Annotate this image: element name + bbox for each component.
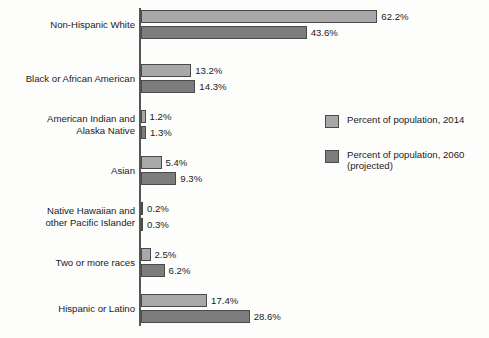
value-axis-foot [139, 324, 141, 326]
bar-value-label: 1.2% [150, 110, 172, 123]
bar-value-label: 13.2% [195, 64, 222, 77]
category-group: Two or more races2.5%6.2% [0, 248, 489, 277]
bar-value-label: 6.2% [169, 264, 191, 277]
bar[interactable] [141, 264, 165, 277]
category-label: American Indian and Alaska Native [5, 113, 135, 136]
legend-item-2014[interactable]: Percent of population, 2014 [325, 114, 485, 136]
bar-value-label: 2.5% [155, 248, 177, 261]
bar[interactable] [141, 310, 250, 323]
bar[interactable] [141, 202, 143, 215]
bar-value-label: 5.4% [166, 156, 188, 169]
legend-label-2014: Percent of population, 2014 [347, 114, 485, 125]
bar-value-label: 28.6% [254, 310, 281, 323]
bar-value-label: 43.6% [311, 26, 338, 39]
bar-value-label: 9.3% [180, 172, 202, 185]
chart-legend: Percent of population, 2014 Percent of p… [325, 114, 485, 185]
category-group: Black or African American13.2%14.3% [0, 64, 489, 93]
bar-value-label: 62.2% [381, 10, 408, 23]
category-label: Two or more races [5, 257, 135, 268]
bar-value-label: 0.2% [147, 202, 169, 215]
bar[interactable] [141, 26, 307, 39]
bar[interactable] [141, 172, 176, 185]
category-label: Hispanic or Latino [5, 303, 135, 314]
bar-value-label: 1.3% [150, 126, 172, 139]
bar[interactable] [141, 218, 143, 231]
bar-value-label: 0.3% [147, 218, 169, 231]
bar[interactable] [141, 248, 151, 261]
category-label: Non-Hispanic White [5, 19, 135, 30]
bar-value-label: 17.4% [211, 294, 238, 307]
category-group: Hispanic or Latino17.4%28.6% [0, 294, 489, 323]
bar[interactable] [141, 156, 162, 169]
category-label: Black or African American [5, 73, 135, 84]
bar[interactable] [141, 80, 195, 93]
legend-label-2060: Percent of population, 2060 (projected) [347, 149, 485, 172]
bar[interactable] [141, 110, 146, 123]
bar[interactable] [141, 294, 207, 307]
category-label: Native Hawaiian and other Pacific Island… [5, 205, 135, 228]
population-race-bar-chart: Non-Hispanic White62.2%43.6%Black or Afr… [0, 0, 489, 338]
bar[interactable] [141, 10, 377, 23]
bar[interactable] [141, 64, 191, 77]
bar-value-label: 14.3% [199, 80, 226, 93]
legend-swatch-2014 [325, 115, 339, 128]
legend-swatch-2060 [325, 150, 339, 163]
category-label: Asian [5, 165, 135, 176]
category-group: Native Hawaiian and other Pacific Island… [0, 202, 489, 231]
bar[interactable] [141, 126, 146, 139]
legend-item-2060[interactable]: Percent of population, 2060 (projected) [325, 149, 485, 172]
category-group: Non-Hispanic White62.2%43.6% [0, 10, 489, 39]
